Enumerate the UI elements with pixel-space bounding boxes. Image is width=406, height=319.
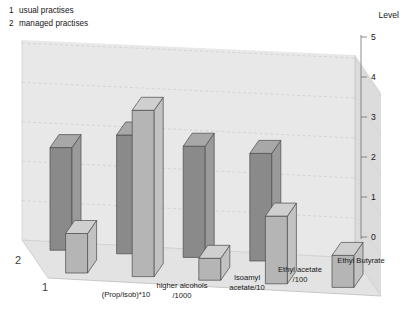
value-tick-label-5: 5 [371,32,376,42]
category-label-2-line-0: Isoamyl [234,273,260,282]
category-label-1-line-0: higher alcohols [156,281,207,290]
category-label-4-line-0: Ethyl Butyrate [337,256,384,265]
value-tick-label-2: 2 [371,152,376,162]
bar-usual-1 [132,97,163,276]
value-axis-title: Level [378,10,399,20]
bar-face [183,146,205,257]
value-tick-label-4: 4 [371,72,376,82]
bar-managed-2 [183,133,214,257]
chart-canvas: 1 usual practises 2 managed practises 54… [0,0,406,319]
category-label-3-line-1: /100 [293,275,308,284]
value-tick-label-0: 0 [371,232,376,242]
category-label-1-line-1: /1000 [172,291,191,300]
category-label-3-line-0: Ethyl acetate [278,265,322,274]
value-tick-label-1: 1 [371,192,376,202]
legend-key-2: 2 [9,19,14,28]
row-label-2: 2 [15,254,21,266]
bar-chart-3d: 1 usual practises 2 managed practises 54… [0,0,406,319]
bar-usual-0 [66,221,97,274]
legend-label-1: usual practises [19,6,74,15]
bar-side [205,133,214,257]
category-label-2-line-1: acetate/10 [229,283,264,292]
legend-label-2: managed practises [19,19,88,28]
bar-face [66,234,88,274]
row-label-1: 1 [42,281,48,293]
bar-side [154,97,163,276]
category-label-0-line-0: (Prop/isob)*10 [102,290,151,299]
bar-face [132,110,154,276]
value-tick-label-3: 3 [371,112,376,122]
bar-face [199,258,221,280]
legend: 1 usual practises 2 managed practises [9,6,88,28]
legend-key-1: 1 [9,6,14,15]
